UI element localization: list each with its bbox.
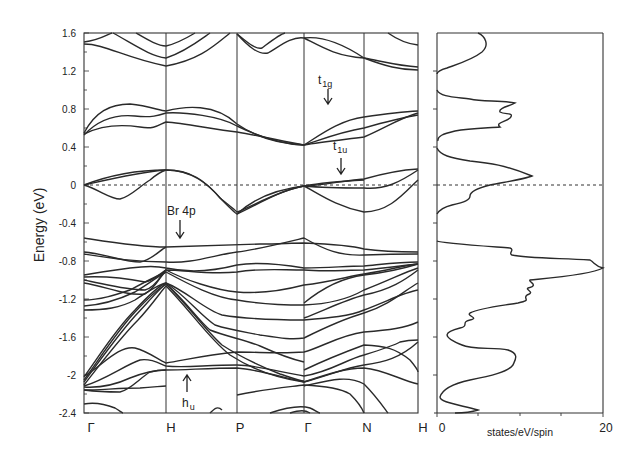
dos-xtick-20: 20 xyxy=(599,421,613,435)
arrow-up-icon xyxy=(183,375,191,392)
annotation-br4p: Br 4p xyxy=(167,204,196,238)
y-tick-label: -0.8 xyxy=(59,256,77,267)
y-minor-ticks xyxy=(84,33,89,413)
k-label-h2: H xyxy=(418,420,427,435)
dos-panel: 0 20 states/eV/spin xyxy=(433,33,613,438)
y-tick-label: -2 xyxy=(67,370,76,381)
svg-text:t1u: t1u xyxy=(333,139,347,155)
k-path-labels: Γ H P Γ N H xyxy=(87,420,427,435)
y-tick-label: -1.2 xyxy=(59,294,77,305)
k-label-n: N xyxy=(362,420,371,435)
band-structure-panel: Γ H P Γ N H t1g t1u Br 4p hu xyxy=(84,33,428,435)
k-label-h: H xyxy=(166,420,175,435)
arrow-down-icon xyxy=(337,158,345,174)
y-tick-label: 1.6 xyxy=(62,28,76,39)
dos-curve xyxy=(437,33,603,413)
valence-bands xyxy=(84,238,418,413)
k-label-gamma: Γ xyxy=(87,420,94,435)
annotation-t1u: t1u xyxy=(333,139,347,174)
br4p-label: Br 4p xyxy=(167,204,196,218)
annotation-t1g: t1g xyxy=(318,73,332,104)
band-structure-figure: Energy (eV) 1.6 1.2 0.8 0.4 0 -0.4 -0.8 … xyxy=(0,0,641,466)
svg-text:t1g: t1g xyxy=(318,73,332,89)
t1u-sub: 1u xyxy=(337,145,347,155)
annotation-hu: hu xyxy=(182,375,195,412)
hu-sub: u xyxy=(190,402,195,412)
y-tick-label: -1.6 xyxy=(59,332,77,343)
arrow-down-icon xyxy=(176,220,184,238)
t1u-bands xyxy=(84,169,418,214)
y-axis-title: Energy (eV) xyxy=(31,188,47,263)
band-panel-frame xyxy=(84,33,418,413)
k-label-p: P xyxy=(236,420,245,435)
svg-text:hu: hu xyxy=(182,396,195,412)
dos-x-ticks xyxy=(437,413,603,417)
t1g-bands xyxy=(84,104,418,145)
t1g-sub: 1g xyxy=(322,79,332,89)
y-tick-label: 0 xyxy=(70,180,76,191)
dos-x-axis-title: states/eV/spin xyxy=(487,426,553,438)
y-tick-label: 1.2 xyxy=(62,66,76,77)
y-tick-label: -0.4 xyxy=(59,218,77,229)
hu-main: h xyxy=(182,396,189,410)
dos-y-ticks xyxy=(433,71,437,375)
y-tick-label: 0.4 xyxy=(62,142,76,153)
y-tick-label: 0.8 xyxy=(62,104,76,115)
dos-xtick-0: 0 xyxy=(439,421,446,435)
y-tick-labels: 1.6 1.2 0.8 0.4 0 -0.4 -0.8 -1.2 -1.6 -2… xyxy=(59,28,77,419)
y-tick-label: -2.4 xyxy=(59,408,77,419)
arrow-down-icon xyxy=(324,89,332,104)
upper-bands xyxy=(84,33,418,70)
k-label-gamma2: Γ xyxy=(304,420,311,435)
